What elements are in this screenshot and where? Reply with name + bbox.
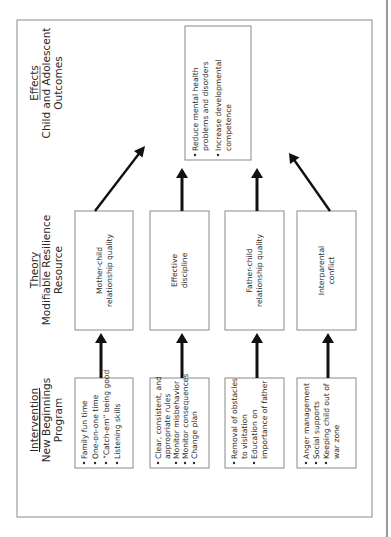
- resource-label: Mother-child: [95, 247, 104, 294]
- intervention-item: One-on-one time: [91, 394, 100, 459]
- intervention-item: Anger management: [302, 383, 311, 459]
- arrow-head-icon: [176, 333, 188, 343]
- bullet-icon: [305, 462, 307, 464]
- bullet-icon: [194, 154, 196, 156]
- intervention-box-4: Anger management Social supports Keeping…: [297, 378, 356, 468]
- resource-label: conflict: [327, 257, 336, 285]
- header-intervention: Intervention New Beginnings Program: [28, 378, 64, 463]
- arrow-head-icon: [176, 168, 188, 178]
- header-theory-line2: Resource: [52, 246, 64, 294]
- intervention-item: to visitation: [240, 414, 249, 459]
- arrow-line: [294, 159, 331, 211]
- resource-label: discipline: [180, 252, 189, 288]
- resource-box-frame: [75, 211, 133, 330]
- intervention-item: Social supports: [312, 401, 321, 459]
- bullet-icon: [116, 462, 118, 464]
- resource-box-effective-discipline: Effective discipline: [150, 211, 209, 330]
- intervention-item: “Catch-em” being good: [102, 369, 111, 459]
- resource-box-father-child: Father-child relationship quality: [225, 211, 284, 330]
- bullet-icon: [315, 462, 317, 464]
- header-theory-line1: Modifiable Resilience: [40, 215, 52, 325]
- intervention-item: Monitor misbehavior: [172, 380, 181, 459]
- arrow-head-icon: [251, 333, 263, 343]
- outcome-item: competence: [224, 104, 233, 151]
- outcome-item: Reduce mental health: [191, 67, 200, 151]
- outcome-item: problems and disorders: [201, 61, 210, 151]
- intervention-box-1: Family fun time One-on-one time “Catch-e…: [75, 369, 133, 468]
- bullet-icon: [253, 462, 255, 464]
- intervention-item: appropriate rules: [163, 394, 172, 459]
- header-intervention-line1: New Beginnings: [40, 378, 52, 463]
- arrow-head-icon: [289, 153, 300, 164]
- arrows-intervention-to-theory: [95, 333, 334, 378]
- intervention-item: Monitor consequences: [181, 373, 190, 459]
- resource-label: Father-child: [245, 248, 254, 292]
- bullet-icon: [184, 462, 186, 464]
- intervention-box-3: Removal of obstacles to visitation Educa…: [225, 378, 284, 468]
- bullet-icon: [217, 154, 219, 156]
- intervention-item: Family fun time: [80, 400, 89, 459]
- header-theory: Theory Modifiable Resilience Resource: [28, 215, 64, 325]
- diagram-canvas: Intervention New Beginnings Program Theo…: [0, 0, 391, 537]
- arrow-head-icon: [251, 168, 263, 178]
- arrow-head-icon: [134, 146, 145, 158]
- intervention-item: Keeping child out of: [322, 383, 331, 459]
- bullet-icon: [233, 462, 235, 464]
- arrow-head-icon: [95, 333, 107, 343]
- intervention-item: Education on: [250, 409, 259, 459]
- header-effects-line2: Outcomes: [52, 56, 64, 109]
- intervention-item: Listening skills: [113, 403, 122, 459]
- intervention-item: Clear, consistent, and: [154, 376, 163, 459]
- resource-box-mother-child: Mother-child relationship quality: [75, 211, 133, 330]
- intervention-item: Change plan: [190, 411, 199, 459]
- rotated-diagram: Intervention New Beginnings Program Theo…: [17, 20, 372, 517]
- bullet-icon: [175, 462, 177, 464]
- arrow-head-icon: [322, 333, 334, 343]
- bullet-icon: [94, 462, 96, 464]
- resource-label: Effective: [170, 254, 179, 287]
- intervention-box-2: Clear, consistent, and appropriate rules…: [150, 373, 209, 468]
- intervention-item: importance of father: [260, 380, 269, 459]
- resource-label: Interparental: [317, 246, 326, 295]
- header-intervention-title: Intervention: [28, 388, 40, 452]
- intervention-item: Removal of obstacles: [230, 378, 239, 459]
- outcome-item: Increase developmental: [214, 60, 223, 151]
- header-effects-line1: Child and Adolescent: [40, 28, 52, 139]
- bullet-icon: [325, 462, 327, 464]
- resource-box-interparental-conflict: Interparental conflict: [297, 211, 356, 330]
- header-effects-title: Effects: [28, 65, 40, 101]
- arrow-line: [95, 153, 140, 211]
- resource-label: relationship quality: [255, 233, 264, 307]
- header-theory-title: Theory: [28, 252, 40, 289]
- bullet-icon: [83, 462, 85, 464]
- header-effects: Effects Child and Adolescent Outcomes: [28, 28, 64, 139]
- bullet-icon: [193, 462, 195, 464]
- header-intervention-line2: Program: [52, 398, 64, 442]
- bullet-icon: [105, 462, 107, 464]
- outcomes-box: Reduce mental health problems and disord…: [185, 26, 251, 160]
- intervention-item: war zone: [332, 424, 341, 459]
- bullet-icon: [157, 462, 159, 464]
- resource-label: relationship quality: [105, 233, 114, 307]
